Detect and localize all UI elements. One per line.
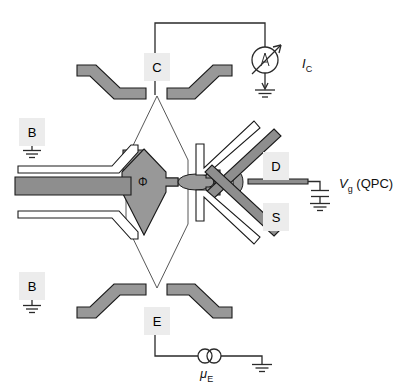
ammeter-group — [252, 45, 281, 89]
gate-label-drain: D — [263, 152, 289, 180]
emitter-wire-left — [155, 335, 198, 356]
gate-label-base-lower: B — [19, 272, 45, 300]
gate-label-source-text: S — [272, 211, 281, 224]
schematic-svg — [0, 0, 393, 384]
gate-label-emitter: E — [144, 307, 170, 335]
channel-base-upper-white — [18, 145, 138, 173]
ground-symbol-qpc — [310, 204, 330, 211]
gate-emitter-right — [167, 284, 232, 318]
collector-current-subscript: C — [306, 64, 313, 74]
qpc-lead-wire — [308, 182, 320, 191]
gate-voltage-label: Vg (QPC) — [339, 176, 393, 194]
ammeter-circle — [252, 47, 278, 73]
gate-collector-left — [77, 65, 146, 99]
gate-collector-right — [167, 65, 232, 99]
gate-label-drain-text: D — [271, 160, 280, 173]
ground-symbol-base-upper — [23, 144, 41, 158]
emitter-potential-subscript: E — [207, 374, 213, 384]
gate-voltage-suffix: (QPC) — [353, 176, 393, 191]
emitter-potential-label: μE — [200, 366, 213, 384]
channel-source-white — [196, 190, 260, 244]
channel-base-lower-white — [18, 211, 138, 239]
gate-voltage-symbol: V — [339, 176, 348, 191]
gate-label-base-upper: B — [19, 118, 45, 146]
gate-label-base-lower-text: B — [28, 280, 37, 293]
flux-label: Φ — [138, 175, 148, 189]
channel-drain-white — [196, 121, 260, 175]
ground-symbol-ammeter — [255, 90, 275, 97]
emitter-circuit-group — [155, 335, 272, 372]
gate-label-collector: C — [144, 53, 170, 81]
gate-emitter-left — [77, 284, 146, 318]
gate-label-emitter-text: E — [153, 315, 162, 328]
gate-label-source: S — [263, 203, 289, 231]
flux-label-text: Φ — [138, 175, 148, 189]
corner-watermark — [323, 1, 389, 10]
collector-current-label: IC — [302, 56, 312, 74]
figure-root: C B B D S E Φ IC Vg (QPC) μE — [0, 0, 393, 384]
gate-label-collector-text: C — [152, 61, 161, 74]
capacitor-symbol-qpc — [311, 191, 329, 204]
emitter-wire-right — [221, 356, 262, 364]
ground-symbol-base-lower — [23, 299, 41, 313]
emitter-source-circle-right — [207, 349, 221, 363]
gate-label-base-upper-text: B — [28, 126, 37, 139]
gate-base-center-bar — [15, 177, 131, 195]
